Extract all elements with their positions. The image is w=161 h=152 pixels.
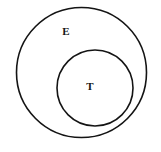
venn-diagram-canvas: E T bbox=[0, 0, 161, 152]
set-label-outer: E bbox=[62, 25, 69, 37]
set-label-inner: T bbox=[86, 80, 94, 92]
set-circle-inner bbox=[57, 50, 133, 126]
venn-diagram-svg: E T bbox=[0, 0, 161, 152]
set-circle-outer bbox=[17, 8, 147, 138]
